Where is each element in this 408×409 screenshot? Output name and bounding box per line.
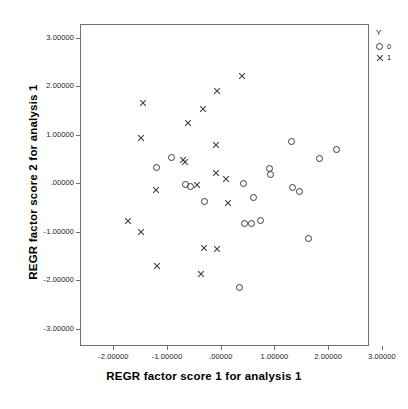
y-tick-label: 3.00000 — [14, 33, 74, 42]
legend-entries: 01 — [375, 42, 391, 63]
data-point-cross — [213, 246, 220, 253]
data-point-circle — [201, 198, 208, 205]
data-point-circle — [168, 154, 175, 161]
y-tick-label: 2.00000 — [14, 81, 74, 90]
data-point-circle — [289, 184, 296, 191]
data-point-circle — [236, 284, 243, 291]
data-point-circle — [333, 146, 340, 153]
y-tick-label: .00000 — [14, 178, 74, 187]
data-points-layer — [81, 25, 368, 345]
x-tick-mark — [221, 346, 222, 350]
x-axis-title: REGR factor score 1 for analysis 1 — [0, 370, 408, 382]
y-tick-mark — [76, 135, 80, 136]
legend: Y 01 — [375, 28, 391, 63]
data-point-cross — [214, 88, 221, 95]
legend-entry[interactable]: 0 — [375, 42, 391, 52]
data-point-cross — [184, 120, 191, 127]
data-point-circle — [296, 188, 303, 195]
y-tick-mark — [76, 38, 80, 39]
data-point-cross — [154, 263, 161, 270]
x-tick-mark — [167, 346, 168, 350]
data-point-circle — [257, 217, 264, 224]
data-point-cross — [153, 186, 160, 193]
data-point-cross — [213, 170, 220, 177]
data-point-cross — [201, 244, 208, 251]
legend-entry-label: 0 — [387, 42, 391, 52]
legend-title: Y — [375, 28, 391, 37]
x-tick-mark — [328, 346, 329, 350]
data-point-cross — [182, 159, 189, 166]
x-tick-label: 3.00000 — [347, 352, 408, 361]
data-point-cross — [198, 271, 205, 278]
x-tick-mark — [113, 346, 114, 350]
data-point-circle — [267, 171, 274, 178]
data-point-circle — [153, 164, 160, 171]
y-tick-label: 1.00000 — [14, 130, 74, 139]
x-tick-mark — [274, 346, 275, 350]
y-tick-mark — [76, 232, 80, 233]
data-point-cross — [199, 106, 206, 113]
data-point-circle — [250, 194, 257, 201]
data-point-cross — [239, 73, 246, 80]
data-point-cross — [139, 99, 146, 106]
y-tick-mark — [76, 329, 80, 330]
legend-entry-label: 1 — [387, 53, 391, 63]
data-point-cross — [194, 181, 201, 188]
cross-icon — [375, 53, 385, 63]
data-point-cross — [224, 199, 231, 206]
data-point-cross — [212, 141, 219, 148]
data-point-cross — [137, 135, 144, 142]
circle-icon — [375, 42, 385, 52]
data-point-circle — [241, 220, 248, 227]
data-point-cross — [137, 228, 144, 235]
y-tick-mark — [76, 280, 80, 281]
data-point-circle — [248, 220, 255, 227]
x-tick-mark — [382, 346, 383, 350]
data-point-circle — [288, 138, 295, 145]
data-point-circle — [240, 180, 247, 187]
scatterplot-figure: 3.000002.000001.00000.00000-1.00000-2.00… — [0, 0, 408, 409]
data-point-cross — [223, 175, 230, 182]
data-point-circle — [316, 155, 323, 162]
y-tick-label: -2.00000 — [14, 275, 74, 284]
y-tick-label: -1.00000 — [14, 227, 74, 236]
data-point-circle — [182, 181, 189, 188]
legend-entry[interactable]: 1 — [375, 53, 391, 63]
data-point-cross — [125, 217, 132, 224]
y-tick-mark — [76, 86, 80, 87]
y-tick-label: -3.00000 — [14, 324, 74, 333]
y-axis-title: REGR factor score 2 for analysis 1 — [27, 32, 39, 332]
y-tick-mark — [76, 183, 80, 184]
data-point-circle — [305, 235, 312, 242]
plot-area — [80, 24, 369, 346]
